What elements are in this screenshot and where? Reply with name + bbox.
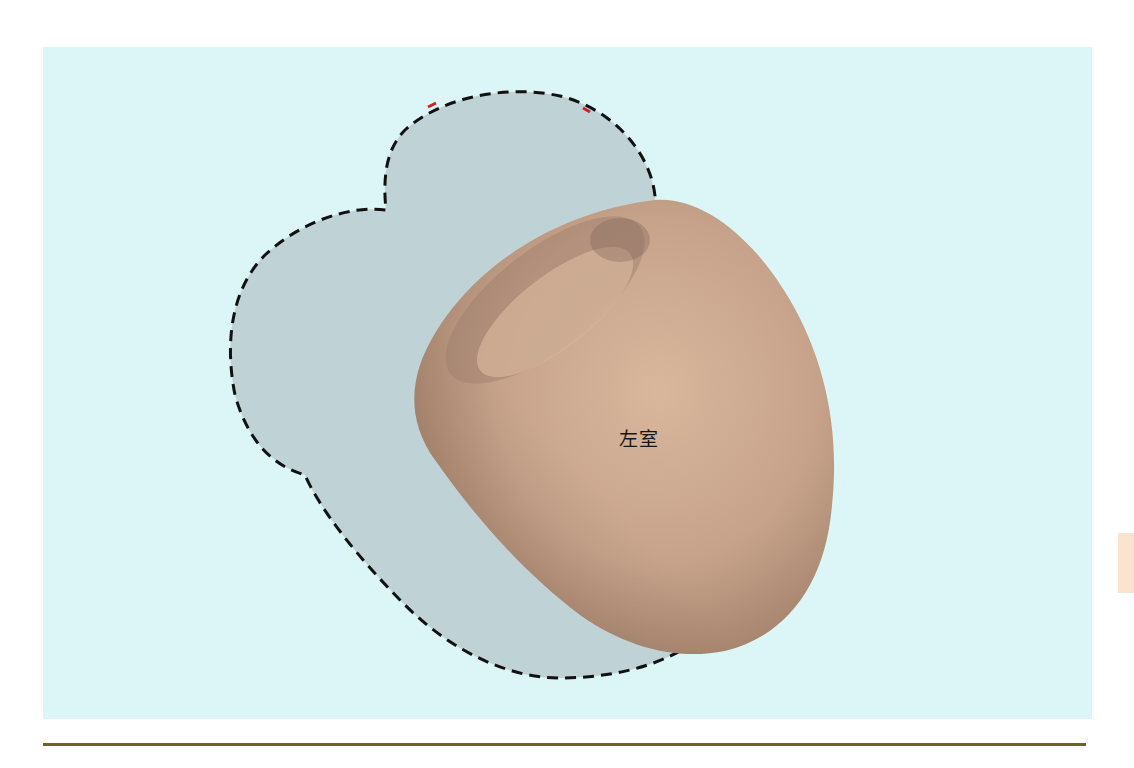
page-edge-tab [1118,533,1134,593]
heart-diagram [0,0,1134,768]
page-divider-rule [43,743,1086,746]
left-ventricle-label: 左室 [619,424,659,451]
accent-mark-left [428,103,436,107]
